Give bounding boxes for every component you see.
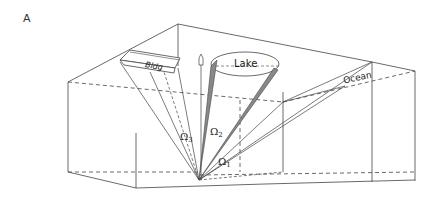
- dashed-horizon: [68, 71, 415, 175]
- lake-cone: [199, 60, 278, 180]
- sight-lines: [120, 62, 372, 180]
- box-outline: [68, 24, 415, 188]
- building-label: Bldg: [144, 60, 163, 72]
- omega2-label: Ω2: [210, 126, 223, 139]
- omega1-label: Ω1: [218, 156, 231, 169]
- lake-label: Lake: [234, 58, 257, 69]
- building: Bldg: [120, 50, 180, 73]
- panel-label: A: [23, 12, 31, 25]
- viewshed-diagram: A Bldg: [0, 0, 437, 203]
- lake: Lake: [211, 52, 279, 76]
